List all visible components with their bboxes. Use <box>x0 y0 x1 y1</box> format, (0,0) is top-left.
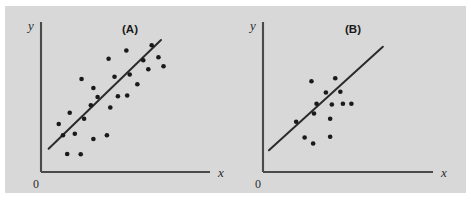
data-point <box>141 58 146 63</box>
data-point <box>91 137 96 142</box>
y-axis-label-a: y <box>26 18 34 33</box>
axes-b <box>263 22 433 172</box>
data-point <box>309 79 314 84</box>
data-point <box>328 116 333 121</box>
panel-label-b: (B) <box>345 23 361 35</box>
data-point <box>79 77 84 82</box>
scatter-plot-b-canvas: y x 0 (B) <box>235 6 466 193</box>
data-point <box>116 94 121 99</box>
data-point <box>156 55 161 60</box>
data-point <box>82 116 87 121</box>
panel-label-a: (A) <box>122 23 138 35</box>
data-point <box>105 133 110 138</box>
data-point <box>330 102 335 107</box>
scatter-plot-b: y x 0 (B) <box>235 6 466 193</box>
data-point <box>73 131 78 136</box>
figure-panel-background: y x 0 (A) y x 0 (B) <box>5 6 466 193</box>
data-point <box>112 74 117 79</box>
data-point <box>91 86 96 91</box>
data-point <box>341 101 346 106</box>
data-point <box>56 122 61 127</box>
regression-line-b <box>269 47 383 151</box>
data-point <box>349 101 354 106</box>
data-point <box>294 119 299 124</box>
data-point <box>67 110 72 115</box>
data-point <box>161 64 166 69</box>
data-point <box>338 89 343 94</box>
data-point <box>302 135 307 140</box>
x-axis-label-a: x <box>217 165 224 180</box>
regression-line-a <box>49 40 161 149</box>
origin-label-a: 0 <box>33 177 39 191</box>
data-point <box>311 141 316 146</box>
data-points-b <box>294 76 354 146</box>
data-point <box>312 111 317 116</box>
data-point <box>135 82 140 87</box>
x-axis-label-b: x <box>440 165 447 180</box>
data-point <box>78 152 83 157</box>
data-point <box>89 103 94 108</box>
data-point <box>333 76 338 81</box>
data-point <box>149 43 154 48</box>
data-point <box>65 152 70 157</box>
data-point <box>95 95 100 100</box>
data-point <box>146 67 151 72</box>
data-point <box>314 101 319 106</box>
y-axis-label-b: y <box>248 18 256 33</box>
origin-label-b: 0 <box>255 177 261 191</box>
data-point <box>108 105 113 110</box>
scatter-plot-a-canvas: y x 0 (A) <box>5 6 235 193</box>
data-point <box>328 134 333 139</box>
data-point <box>106 56 111 61</box>
data-point <box>61 133 66 138</box>
data-point <box>127 72 132 77</box>
scatter-plot-a: y x 0 (A) <box>5 6 235 193</box>
figure-root: y x 0 (A) y x 0 (B) <box>0 0 471 206</box>
data-point <box>124 48 129 53</box>
data-points-a <box>56 43 165 157</box>
data-point <box>125 93 130 98</box>
data-point <box>324 90 329 95</box>
